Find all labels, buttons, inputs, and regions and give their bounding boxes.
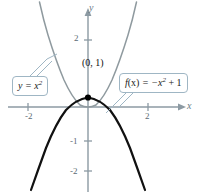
callout-fx-rest: = −x (139, 77, 162, 88)
figure-canvas: y x -2 2 2 -1 -2 (0, 1) y = x2 f(x) = −x… (0, 0, 208, 192)
callout-y-equals-x-squared[interactable]: y = x2 (12, 76, 48, 96)
callout-fx-argument: (x) (128, 77, 140, 88)
callout-f-of-x[interactable]: f(x) = −x2 + 1 (119, 73, 188, 93)
vertex-point-marker (85, 94, 91, 100)
callout-yx2-exponent: 2 (39, 79, 43, 87)
y-tick-label-minus-1: -1 (70, 136, 78, 146)
vertex-point-label: (0, 1) (82, 57, 104, 68)
x-tick-label-2: 2 (145, 111, 150, 121)
y-tick-label-minus-2: -2 (70, 166, 78, 176)
x-tick-label-minus-2: -2 (25, 111, 33, 121)
y-tick-label-2: 2 (74, 33, 79, 43)
leader-line-y-equals-x-squared (30, 54, 57, 76)
callout-yx2-base: y = x (18, 80, 39, 91)
x-axis-label: x (187, 100, 191, 111)
y-axis-label: y (89, 2, 93, 13)
callout-fx-tail: + 1 (166, 77, 182, 88)
